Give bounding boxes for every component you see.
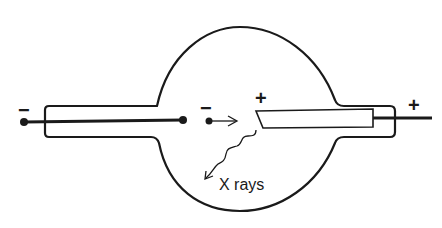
electron-minus-sign: − — [200, 97, 212, 119]
target-plus-sign: + — [255, 87, 267, 109]
xray-wave — [206, 130, 256, 178]
anode-target — [256, 109, 373, 128]
cathode-rod — [24, 120, 183, 122]
xray-tube-diagram: − − + + X rays — [0, 0, 442, 228]
xray-emission — [205, 130, 256, 179]
xrays-label: X rays — [219, 176, 264, 193]
anode-plus-sign: + — [408, 94, 420, 116]
cathode-inner-tip — [179, 116, 187, 124]
cathode-minus-sign: − — [18, 99, 30, 121]
